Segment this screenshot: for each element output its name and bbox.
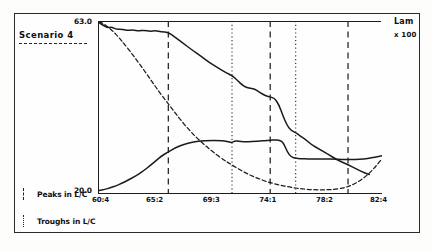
legend-item-1: Troughs in L/C <box>19 212 109 230</box>
x-tick-label-2: 69:3 <box>203 196 220 204</box>
series-line <box>99 22 382 190</box>
x-tick-label-1: 65:2 <box>146 196 163 204</box>
series-line <box>99 140 382 191</box>
unit-name-label: Lam <box>394 17 417 26</box>
x-tick-label-3: 74:1 <box>259 196 276 204</box>
unit-caption: Lam x 100 <box>394 17 417 39</box>
title-underline <box>19 43 87 44</box>
troughs-key-icon <box>19 215 31 227</box>
gridlines-group <box>168 21 348 193</box>
x-tick-label-5: 82:4 <box>370 196 387 204</box>
x-axis-tick-labels: 60:465:269:374:178:282:4 <box>98 196 381 208</box>
x-tick-label-4: 78:2 <box>316 196 333 204</box>
plot-area <box>98 21 382 194</box>
y-axis-max-label: 63.0 <box>74 17 92 26</box>
legend-item-0: Peaks in L/C <box>19 185 109 203</box>
chart-canvas <box>99 21 382 193</box>
peaks-key-icon <box>19 188 31 200</box>
series-line <box>99 23 369 175</box>
unit-multiplier-label: x 100 <box>394 31 417 39</box>
series-group <box>99 22 382 191</box>
legend-label-1: Troughs in L/C <box>37 217 95 226</box>
legend-label-0: Peaks in L/C <box>37 190 87 199</box>
scanned-chart-page: Scenario 4 63.0 20.0 60:465:269:374:178:… <box>0 0 432 251</box>
legend: Peaks in L/CTroughs in L/C <box>19 185 109 239</box>
